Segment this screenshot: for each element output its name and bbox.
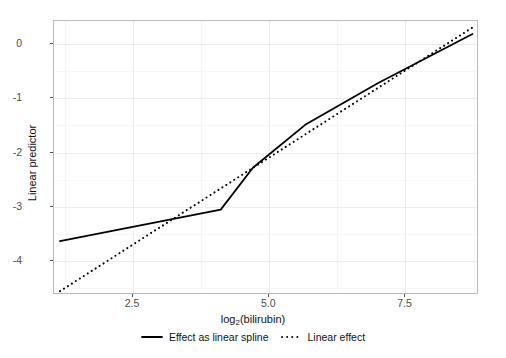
- legend-item-spline[interactable]: Effect as linear spline: [141, 331, 269, 343]
- x-tick-mark: [132, 294, 133, 297]
- legend-item-linear[interactable]: Linear effect: [280, 331, 366, 343]
- y-tick-mark: [50, 43, 53, 44]
- x-axis-title-sub: 2: [235, 318, 239, 327]
- legend-label-spline: Effect as linear spline: [169, 331, 269, 343]
- x-axis-title: log2(bilirubin): [0, 313, 506, 325]
- data-layer: [54, 21, 479, 295]
- y-tick-mark: [50, 97, 53, 98]
- legend-label-linear: Linear effect: [308, 331, 366, 343]
- x-tick-mark: [268, 294, 269, 297]
- y-tick-mark: [50, 260, 53, 261]
- x-tick-label: 5.0: [261, 297, 276, 309]
- chart-figure: 0-1-2-3-4 2.55.07.5 log2(bilirubin) Line…: [0, 0, 506, 358]
- chart-legend: Effect as linear spline Linear effect: [0, 331, 506, 343]
- x-axis-title-rest: (bilirubin): [240, 313, 285, 325]
- plot-panel: [53, 20, 478, 294]
- legend-key-dotted-icon: [280, 332, 302, 342]
- y-tick-label: 0: [0, 37, 22, 49]
- y-tick-mark: [50, 152, 53, 153]
- x-axis-title-base: log: [221, 313, 236, 325]
- series-linear-spline: [60, 34, 472, 241]
- y-axis-title: Linear predictor: [26, 73, 38, 253]
- x-tick-label: 7.5: [397, 297, 412, 309]
- y-tick-mark: [50, 206, 53, 207]
- y-tick-label: -2: [0, 146, 22, 158]
- x-tick-mark: [404, 294, 405, 297]
- legend-key-solid-icon: [141, 332, 163, 342]
- x-tick-label: 2.5: [125, 297, 140, 309]
- y-tick-label: -1: [0, 91, 22, 103]
- y-tick-label: -3: [0, 200, 22, 212]
- y-tick-label: -4: [0, 254, 22, 266]
